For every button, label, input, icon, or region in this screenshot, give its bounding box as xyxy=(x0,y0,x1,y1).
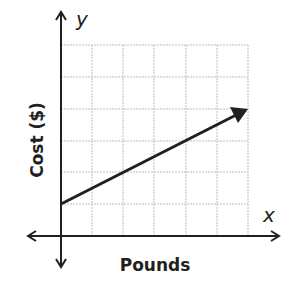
y-axis-letter: y xyxy=(75,7,89,31)
x-axis-letter: x xyxy=(262,203,275,227)
x-axis-label: Pounds xyxy=(120,255,191,275)
grid xyxy=(61,45,248,236)
arrowhead-icon xyxy=(230,107,248,123)
y-axis-label: Cost ($) xyxy=(27,102,47,178)
chart: y x Pounds Cost ($) xyxy=(0,0,281,288)
